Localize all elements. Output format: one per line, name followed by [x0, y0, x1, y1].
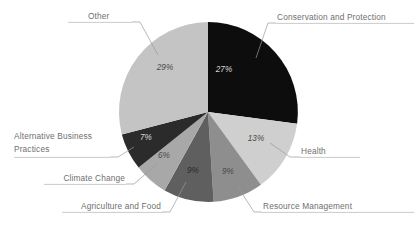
label-conservation-and-protection: Conservation and Protection	[277, 12, 386, 22]
slice-value-climate-change: 6%	[158, 151, 170, 160]
label-agriculture-and-food: Agriculture and Food	[81, 201, 161, 211]
slice-value-health: 13%	[248, 134, 265, 143]
slice-value-resource-management: 9%	[222, 167, 234, 176]
label-health: Health	[301, 146, 326, 156]
pie-chart-figure: 27% 13% 9% 9% 6% 7% 29% Conservation and…	[0, 0, 416, 237]
pie-slices	[119, 22, 298, 202]
label-alternative-business-practices-line1: Alternative Business	[14, 131, 92, 141]
slice-value-agriculture-and-food: 9%	[187, 166, 199, 175]
slice-value-other: 29%	[156, 63, 174, 72]
label-other: Other	[88, 11, 110, 21]
label-climate-change: Climate Change	[63, 173, 125, 183]
label-alternative-business-practices-line2: Practices	[14, 144, 49, 154]
slice-value-conservation: 27%	[215, 65, 233, 74]
slice-value-alternative-business-practices: 7%	[140, 133, 152, 142]
pie-chart-canvas: 27% 13% 9% 9% 6% 7% 29% Conservation and…	[0, 0, 416, 237]
label-resource-management: Resource Management	[263, 201, 353, 211]
